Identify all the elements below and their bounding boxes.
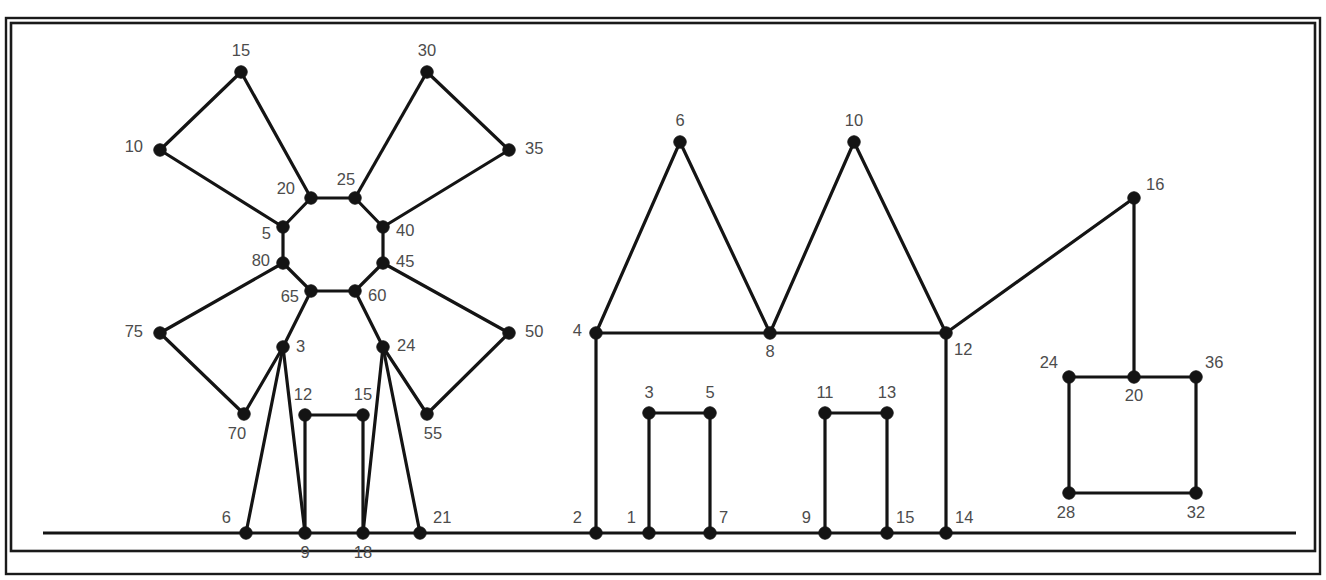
node-label: 9 — [802, 508, 811, 526]
graph-node-10[interactable] — [154, 144, 166, 156]
graph-edge — [854, 142, 946, 333]
graph-node-21[interactable] — [414, 527, 426, 539]
graph-node-9[interactable] — [299, 527, 311, 539]
figure-frame — [6, 18, 1320, 574]
graph-node-11[interactable] — [819, 407, 831, 419]
node-label: 32 — [1187, 503, 1205, 521]
graph-node-80[interactable] — [277, 257, 289, 269]
node-label: 3 — [296, 337, 305, 355]
node-label: 18 — [354, 543, 372, 561]
node-label: 14 — [955, 508, 973, 526]
graph-edge — [383, 263, 509, 333]
node-layer — [154, 66, 1202, 539]
graph-node-65[interactable] — [305, 285, 317, 297]
node-label: 65 — [281, 287, 299, 305]
graph-edge — [160, 263, 283, 333]
graph-edge — [160, 72, 241, 150]
node-label: 5 — [262, 224, 271, 242]
graph-node-20[interactable] — [305, 192, 317, 204]
graph-edge — [770, 142, 854, 333]
node-label: 8 — [765, 342, 774, 360]
frame-inner — [11, 23, 1315, 551]
graph-node-16[interactable] — [1128, 192, 1140, 204]
graph-node-32[interactable] — [1190, 487, 1202, 499]
graph-node-7[interactable] — [704, 527, 716, 539]
graph-node-12[interactable] — [940, 327, 952, 339]
graph-node-50[interactable] — [503, 327, 515, 339]
graph-node-5[interactable] — [704, 407, 716, 419]
node-label: 6 — [222, 508, 231, 526]
node-label: 80 — [252, 251, 270, 269]
node-label: 9 — [300, 543, 309, 561]
graph-edge — [946, 198, 1134, 333]
graph-edge — [596, 142, 680, 333]
graph-edge — [427, 72, 509, 150]
node-label: 75 — [125, 322, 143, 340]
node-label: 20 — [1125, 386, 1143, 404]
graph-edge — [283, 347, 305, 533]
graph-node-6[interactable] — [674, 136, 686, 148]
graph-node-45[interactable] — [377, 257, 389, 269]
node-label: 15 — [354, 385, 372, 403]
node-label: 35 — [525, 139, 543, 157]
graph-node-75[interactable] — [154, 327, 166, 339]
graph-node-36[interactable] — [1190, 371, 1202, 383]
label-layer: 1530103520255408045656075503247055121569… — [125, 41, 1224, 561]
node-label: 3 — [644, 383, 653, 401]
graph-node-2[interactable] — [590, 527, 602, 539]
graph-node-18[interactable] — [357, 527, 369, 539]
graph-node-55[interactable] — [421, 408, 433, 420]
graph-node-15[interactable] — [881, 527, 893, 539]
graph-node-60[interactable] — [349, 285, 361, 297]
node-label: 12 — [954, 340, 972, 358]
node-label: 10 — [125, 137, 143, 155]
node-label: 55 — [424, 424, 442, 442]
diagram-canvas: 1530103520255408045656075503247055121569… — [0, 0, 1326, 580]
graph-node-25[interactable] — [349, 192, 361, 204]
graph-node-40[interactable] — [377, 221, 389, 233]
graph-edge — [160, 333, 244, 414]
graph-node-3[interactable] — [643, 407, 655, 419]
node-label: 60 — [368, 286, 386, 304]
graph-edge — [363, 347, 383, 533]
node-label: 2 — [573, 508, 582, 526]
graph-node-1[interactable] — [643, 527, 655, 539]
graph-node-15[interactable] — [235, 66, 247, 78]
node-label: 4 — [573, 321, 582, 339]
node-label: 5 — [705, 383, 714, 401]
graph-edge — [383, 150, 509, 227]
graph-node-3[interactable] — [277, 341, 289, 353]
node-label: 70 — [228, 424, 246, 442]
graph-edge — [355, 72, 427, 198]
node-label: 20 — [277, 179, 295, 197]
node-label: 25 — [337, 170, 355, 188]
graph-node-14[interactable] — [940, 527, 952, 539]
node-label: 12 — [294, 385, 312, 403]
graph-node-5[interactable] — [277, 221, 289, 233]
graph-node-20[interactable] — [1128, 371, 1140, 383]
node-label: 21 — [433, 508, 451, 526]
graph-node-35[interactable] — [503, 144, 515, 156]
node-label: 24 — [397, 336, 415, 354]
graph-node-30[interactable] — [421, 66, 433, 78]
frame-outer — [6, 18, 1320, 574]
node-label: 45 — [396, 252, 414, 270]
node-label: 24 — [1040, 353, 1058, 371]
graph-node-13[interactable] — [881, 407, 893, 419]
graph-node-8[interactable] — [764, 327, 776, 339]
graph-node-10[interactable] — [848, 136, 860, 148]
node-label: 7 — [719, 508, 728, 526]
node-label: 13 — [878, 383, 896, 401]
graph-node-9[interactable] — [819, 527, 831, 539]
graph-node-6[interactable] — [240, 527, 252, 539]
graph-node-28[interactable] — [1063, 487, 1075, 499]
node-label: 28 — [1057, 503, 1075, 521]
graph-node-4[interactable] — [590, 327, 602, 339]
graph-node-15[interactable] — [357, 409, 369, 421]
graph-node-24[interactable] — [377, 341, 389, 353]
node-label: 40 — [396, 221, 414, 239]
graph-node-12[interactable] — [299, 409, 311, 421]
graph-edge — [246, 347, 283, 533]
graph-node-70[interactable] — [238, 408, 250, 420]
graph-node-24[interactable] — [1063, 371, 1075, 383]
